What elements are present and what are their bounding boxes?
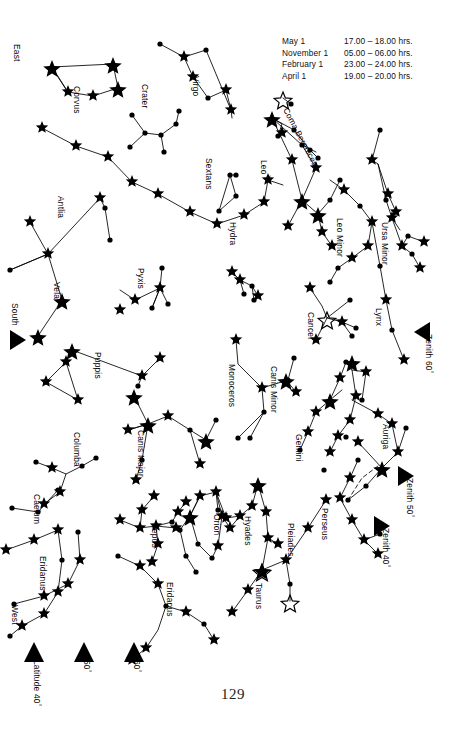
visibility-legend: May 1 17.00 – 18.00 hrs. November 1 05.0… [282, 36, 444, 82]
constellation-label: Cancer [306, 312, 316, 340]
legend-time: 17.00 – 18.00 hrs. [344, 36, 444, 48]
constellation-label: Vela [52, 282, 62, 299]
constellation-label: Taurus [254, 583, 264, 609]
constellation-label: Hydra [228, 222, 238, 245]
constellation-label: Leo [259, 160, 269, 175]
legend-date: May 1 [282, 36, 344, 48]
constellation-label: Monoceros [227, 364, 237, 407]
legend-row: May 1 17.00 – 18.00 hrs. [282, 36, 444, 48]
latitude-50-triangle [74, 642, 94, 662]
constellation-label: Canis Major [136, 430, 146, 477]
legend-time: 19.00 – 20.00 hrs. [344, 71, 444, 83]
constellation-label: Caelum [32, 494, 42, 524]
constellation-label: Pyxis [136, 268, 146, 289]
constellation-label: Auriga [381, 424, 391, 449]
direction-label-west: West [10, 605, 20, 625]
legend-row: February 1 23.00 – 24.00 hrs. [282, 59, 444, 71]
stars-layer [0, 41, 430, 664]
constellation-label: Columba [72, 432, 82, 467]
constellation-label: Eridanus [165, 582, 175, 617]
constellation-label: Pleiades [286, 523, 296, 557]
constellation-label: Puppis [93, 352, 103, 379]
constellation-label: Virgo [191, 76, 201, 96]
constellation-label: Gemini [294, 434, 304, 462]
constellation-label: Orion [212, 514, 222, 535]
latitude-40-triangle [24, 642, 44, 662]
zenith-40-label: Zenith 40° [381, 528, 391, 568]
latitude-50-label: 50° [82, 660, 92, 673]
medium-stars [0, 50, 430, 665]
south-triangle [10, 330, 26, 350]
zenith-50-label: Zenith 50° [405, 478, 415, 518]
constellation-label: Leo Minor [335, 218, 345, 257]
legend-time: 05.00 – 06.00 hrs. [344, 48, 444, 60]
constellation-label: Perseus [320, 508, 330, 540]
legend-time: 23.00 – 24.00 hrs. [344, 59, 444, 71]
constellation-label: Corvus [72, 86, 82, 114]
zenith-60-label: Zenith 60° [424, 334, 434, 374]
constellation-label: Antlia [56, 196, 66, 218]
legend-date: November 1 [282, 48, 344, 60]
constellation-label: Canis Minor [269, 366, 279, 413]
constellation-label: Lynx [374, 308, 384, 326]
constellation-label: Crater [140, 84, 150, 108]
legend-row: November 1 05.00 – 06.00 hrs. [282, 48, 444, 60]
legend-date: February 1 [282, 59, 344, 71]
latitude-60-label: 60° [132, 660, 142, 673]
direction-label-east: East [12, 44, 22, 62]
star-chart-page: May 1 17.00 – 18.00 hrs. November 1 05.0… [0, 0, 466, 742]
direction-label-south: South [10, 303, 20, 326]
faint-stars [7, 41, 414, 638]
legend-date: April 1 [282, 71, 344, 83]
constellation-label: Lepus [150, 524, 160, 548]
constellation-label: Eridanus [38, 556, 48, 591]
legend-row: April 1 19.00 – 20.00 hrs. [282, 71, 444, 83]
constellation-label: Hyades [243, 516, 253, 546]
page-number: 129 [0, 686, 466, 703]
constellation-label: Sextans [204, 158, 214, 190]
constellation-label: Ursa Minor [380, 222, 390, 265]
